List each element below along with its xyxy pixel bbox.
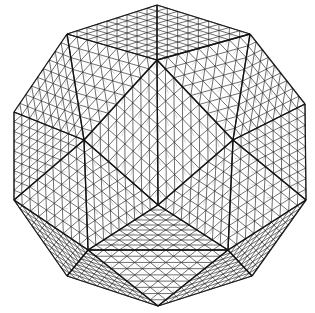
wireframe-canvas [0,0,315,313]
strut [157,8,167,11]
strut [219,43,244,70]
strut [232,147,241,153]
strut [22,46,69,115]
strut [191,176,230,201]
strut [133,183,134,220]
strut [117,169,119,230]
strut [14,140,84,200]
strut [233,104,305,140]
strut [263,167,266,228]
strut [158,189,166,198]
strut [157,60,158,205]
strut [149,69,157,76]
strut [228,200,306,250]
strut [78,105,108,114]
strut [232,152,297,205]
strut [149,69,150,198]
strut [158,104,200,140]
strut [191,96,192,177]
strut [166,198,228,238]
strut [45,173,86,201]
strut [20,103,22,115]
strut [216,40,229,122]
strut [87,213,112,235]
strut [47,189,86,222]
strut [61,43,69,46]
strut [88,238,96,245]
strut [208,162,231,177]
strut [244,69,281,116]
strut [281,81,287,116]
strut [230,173,273,201]
strut [273,120,274,173]
strut [79,262,118,293]
strut [220,238,228,245]
strut [127,250,166,281]
strut [157,69,165,76]
strut [249,206,297,274]
strut [14,121,37,141]
strut [69,37,77,46]
strut [181,183,183,220]
strut [197,169,200,230]
strut [53,167,55,228]
strut [231,189,272,222]
strut [82,128,92,131]
strut [200,262,239,293]
strut [117,124,158,168]
strut [80,238,88,245]
strut [32,86,38,121]
strut [189,189,231,225]
strut [282,168,306,180]
strut [297,193,298,205]
strut [240,37,248,46]
strut [73,43,97,70]
strut [157,21,209,35]
strut [86,189,127,225]
strut [127,51,133,86]
strut [225,128,235,131]
strut [22,193,88,237]
strut [191,81,243,95]
strut [14,171,37,180]
strut [166,198,167,210]
strut [212,250,220,256]
strut [127,225,166,250]
strut [205,213,230,235]
strut [150,250,189,281]
strut [225,147,233,152]
strut [86,176,125,201]
strut [147,8,157,11]
strut [76,147,84,153]
strut [37,180,38,217]
strut [14,115,22,122]
strut [208,43,219,114]
strut [84,147,92,152]
strut [297,96,299,108]
strut [14,128,53,161]
strut [208,105,239,114]
strut [88,250,158,306]
strut [280,180,282,217]
strut [49,251,74,268]
geodesic-polyhedron-diagram [0,0,315,313]
strut [107,21,157,35]
strut [281,116,305,136]
strut [85,162,108,177]
strut [96,245,104,250]
strut [229,238,237,245]
strut [96,250,104,256]
strut [61,105,79,131]
strut [49,60,72,69]
strut [125,96,126,177]
strut [43,69,52,128]
strut [265,124,306,157]
strut [182,51,188,86]
strut [228,140,233,250]
strut [265,147,305,167]
strut [297,108,305,115]
strut [220,256,241,279]
strut [297,108,298,193]
strut [84,140,88,250]
strut [244,251,270,268]
